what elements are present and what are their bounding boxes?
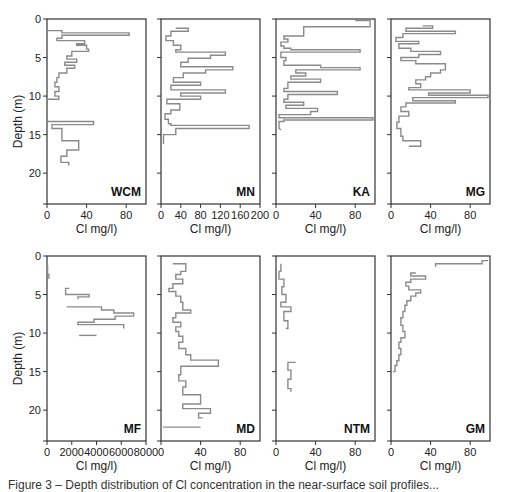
x-tick-label: 80	[194, 209, 206, 221]
panel-label: MN	[236, 185, 255, 199]
x-tick-label: 0	[273, 446, 279, 458]
y-tick-label: 0	[35, 13, 41, 25]
x-tick-label: 0	[273, 209, 279, 221]
panel-label: MG	[466, 185, 485, 199]
x-tick-label: 80	[349, 209, 361, 221]
y-axis-title: Depth (m)	[11, 95, 25, 148]
panel-wcm: 0510152004080Cl mg/l)WCMDepth (m)	[11, 13, 146, 236]
profile-line	[288, 362, 296, 391]
y-tick-label: 0	[35, 250, 41, 262]
x-tick-label: 80	[464, 446, 476, 458]
panel-ka: 04080Cl mg/l)KA	[272, 19, 375, 236]
x-axis-title: Cl mg/l)	[305, 222, 346, 236]
panel-mn: 04080120160200Cl mg/l)MN	[157, 19, 269, 236]
panel-label: GM	[466, 422, 485, 436]
panel-label: KA	[353, 185, 371, 199]
plot-frame	[161, 19, 260, 204]
x-axis-title: Cl mg/l)	[305, 459, 346, 473]
plot-frame	[47, 19, 146, 204]
panel-gm: 04080Cl mg/l)GM	[387, 256, 490, 473]
panel-mg: 04080Cl mg/l)MG	[387, 19, 490, 236]
profile-line	[47, 31, 129, 100]
x-tick-label: 120	[211, 209, 229, 221]
y-tick-label: 5	[35, 52, 41, 64]
profile-line	[164, 28, 250, 144]
panel-label: MD	[236, 422, 255, 436]
profile-line	[48, 265, 49, 279]
profile-line	[67, 307, 134, 329]
x-tick-label: 40	[194, 446, 206, 458]
profile-line	[436, 261, 488, 267]
profile-line	[47, 122, 94, 166]
x-tick-label: 40	[309, 209, 321, 221]
x-tick-label: 0	[158, 209, 164, 221]
y-tick-label: 15	[29, 129, 41, 141]
x-axis-title: Cl mg/l)	[76, 222, 117, 236]
y-tick-label: 10	[29, 90, 41, 102]
x-tick-label: 40	[309, 446, 321, 458]
x-tick-label: 40	[424, 209, 436, 221]
x-tick-label: 0	[388, 209, 394, 221]
x-tick-label: 4000	[84, 446, 108, 458]
panel-label: WCM	[111, 185, 141, 199]
y-axis-title: Depth (m)	[11, 332, 25, 385]
profile-line	[393, 273, 426, 372]
x-tick-label: 80	[464, 209, 476, 221]
x-tick-label: 8000	[134, 446, 158, 458]
x-tick-label: 0	[158, 446, 164, 458]
x-axis-title: Cl mg/l)	[420, 222, 461, 236]
y-tick-label: 15	[29, 366, 41, 378]
panel-mf: 0510152002000400060008000Cl mg/l)MFDepth…	[11, 250, 158, 473]
panel-ntm: 04080Cl mg/l)NTM	[272, 256, 375, 473]
profile-line	[169, 264, 219, 418]
profile-line	[66, 288, 90, 299]
x-tick-label: 40	[175, 209, 187, 221]
x-tick-label: 6000	[109, 446, 133, 458]
profile-line	[396, 26, 488, 146]
figure-caption: Figure 3 – Depth distribution of Cl conc…	[8, 478, 439, 492]
x-tick-label: 40	[424, 446, 436, 458]
x-tick-label: 80	[234, 446, 246, 458]
x-tick-label: 2000	[60, 446, 84, 458]
x-tick-label: 80	[120, 209, 132, 221]
panel-label: MF	[124, 422, 141, 436]
profile-line	[279, 264, 291, 329]
x-tick-label: 40	[80, 209, 92, 221]
x-tick-label: 0	[44, 446, 50, 458]
y-tick-label: 10	[29, 327, 41, 339]
plot-frame	[276, 19, 375, 204]
x-axis-title: Cl mg/l)	[190, 222, 231, 236]
x-tick-label: 160	[231, 209, 249, 221]
y-tick-label: 20	[29, 404, 41, 416]
x-tick-label: 0	[388, 446, 394, 458]
y-tick-label: 5	[35, 289, 41, 301]
plot-frame	[47, 256, 146, 441]
x-axis-title: Cl mg/l)	[420, 459, 461, 473]
panel-label: NTM	[344, 422, 370, 436]
y-tick-label: 20	[29, 167, 41, 179]
x-tick-label: 80	[349, 446, 361, 458]
x-tick-label: 200	[251, 209, 269, 221]
plot-frame	[276, 256, 375, 441]
x-tick-label: 0	[44, 209, 50, 221]
x-axis-title: Cl mg/l)	[190, 459, 231, 473]
panel-md: 04080Cl mg/l)MD	[157, 256, 260, 473]
profile-line	[279, 21, 373, 131]
x-axis-title: Cl mg/l)	[76, 459, 117, 473]
